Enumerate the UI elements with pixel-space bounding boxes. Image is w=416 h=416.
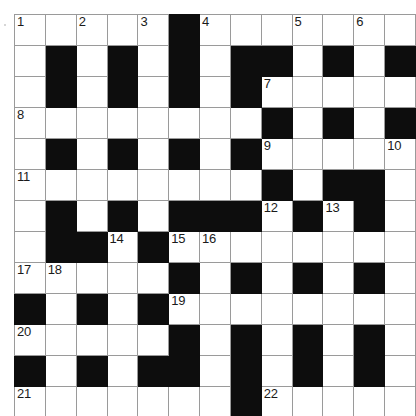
- crossword-open-cell[interactable]: [107, 170, 138, 201]
- crossword-open-cell[interactable]: [323, 15, 354, 46]
- crossword-open-cell[interactable]: [45, 325, 76, 356]
- crossword-open-cell[interactable]: [107, 263, 138, 294]
- crossword-open-cell[interactable]: [200, 387, 231, 416]
- crossword-open-cell[interactable]: 14: [107, 232, 138, 263]
- crossword-open-cell[interactable]: 3: [138, 15, 169, 46]
- crossword-open-cell[interactable]: [45, 15, 76, 46]
- crossword-open-cell[interactable]: [261, 232, 292, 263]
- crossword-open-cell[interactable]: [169, 108, 200, 139]
- crossword-open-cell[interactable]: [385, 263, 416, 294]
- crossword-open-cell[interactable]: [323, 232, 354, 263]
- crossword-open-cell[interactable]: [138, 46, 169, 77]
- crossword-open-cell[interactable]: [76, 77, 107, 108]
- crossword-open-cell[interactable]: [323, 263, 354, 294]
- crossword-open-cell[interactable]: [385, 170, 416, 201]
- crossword-open-cell[interactable]: [107, 15, 138, 46]
- crossword-open-cell[interactable]: [45, 294, 76, 325]
- crossword-open-cell[interactable]: [138, 139, 169, 170]
- crossword-open-cell[interactable]: [385, 232, 416, 263]
- crossword-open-cell[interactable]: [385, 325, 416, 356]
- crossword-open-cell[interactable]: [354, 46, 385, 77]
- crossword-open-cell[interactable]: [45, 108, 76, 139]
- crossword-open-cell[interactable]: [107, 356, 138, 387]
- crossword-open-cell[interactable]: [107, 387, 138, 416]
- crossword-open-cell[interactable]: [385, 387, 416, 416]
- crossword-open-cell[interactable]: [107, 325, 138, 356]
- crossword-open-cell[interactable]: [15, 232, 46, 263]
- crossword-open-cell[interactable]: 18: [45, 263, 76, 294]
- crossword-open-cell[interactable]: 15: [169, 232, 200, 263]
- crossword-open-cell[interactable]: [200, 108, 231, 139]
- crossword-open-cell[interactable]: [76, 108, 107, 139]
- crossword-open-cell[interactable]: [230, 108, 261, 139]
- crossword-open-cell[interactable]: 9: [261, 139, 292, 170]
- crossword-open-cell[interactable]: 22: [261, 387, 292, 416]
- crossword-open-cell[interactable]: [76, 263, 107, 294]
- crossword-open-cell[interactable]: [261, 263, 292, 294]
- crossword-open-cell[interactable]: [385, 15, 416, 46]
- crossword-open-cell[interactable]: 21: [15, 387, 46, 416]
- crossword-open-cell[interactable]: [323, 139, 354, 170]
- crossword-open-cell[interactable]: 19: [169, 294, 200, 325]
- crossword-open-cell[interactable]: [323, 387, 354, 416]
- crossword-open-cell[interactable]: [385, 356, 416, 387]
- crossword-open-cell[interactable]: [169, 387, 200, 416]
- crossword-open-cell[interactable]: [261, 325, 292, 356]
- crossword-open-cell[interactable]: [354, 294, 385, 325]
- crossword-open-cell[interactable]: [200, 356, 231, 387]
- crossword-open-cell[interactable]: 7: [261, 77, 292, 108]
- crossword-open-cell[interactable]: [15, 201, 46, 232]
- crossword-open-cell[interactable]: [354, 139, 385, 170]
- crossword-open-cell[interactable]: [76, 139, 107, 170]
- crossword-open-cell[interactable]: [15, 46, 46, 77]
- crossword-open-cell[interactable]: [200, 46, 231, 77]
- crossword-open-cell[interactable]: [76, 201, 107, 232]
- crossword-open-cell[interactable]: [138, 201, 169, 232]
- crossword-open-cell[interactable]: 11: [15, 170, 46, 201]
- crossword-open-cell[interactable]: [230, 294, 261, 325]
- crossword-open-cell[interactable]: [200, 77, 231, 108]
- crossword-open-cell[interactable]: [76, 46, 107, 77]
- crossword-open-cell[interactable]: [200, 325, 231, 356]
- crossword-open-cell[interactable]: [354, 108, 385, 139]
- crossword-open-cell[interactable]: [292, 46, 323, 77]
- crossword-open-cell[interactable]: [292, 170, 323, 201]
- crossword-open-cell[interactable]: [385, 77, 416, 108]
- crossword-open-cell[interactable]: [230, 232, 261, 263]
- crossword-open-cell[interactable]: [261, 15, 292, 46]
- crossword-open-cell[interactable]: [107, 294, 138, 325]
- crossword-open-cell[interactable]: [45, 170, 76, 201]
- crossword-open-cell[interactable]: [138, 77, 169, 108]
- crossword-open-cell[interactable]: 10: [385, 139, 416, 170]
- crossword-open-cell[interactable]: [200, 139, 231, 170]
- crossword-open-cell[interactable]: [354, 77, 385, 108]
- crossword-open-cell[interactable]: 2: [76, 15, 107, 46]
- crossword-open-cell[interactable]: 12: [261, 201, 292, 232]
- crossword-open-cell[interactable]: [230, 170, 261, 201]
- crossword-open-cell[interactable]: 17: [15, 263, 46, 294]
- crossword-open-cell[interactable]: [323, 325, 354, 356]
- crossword-open-cell[interactable]: [200, 263, 231, 294]
- crossword-open-cell[interactable]: 5: [292, 15, 323, 46]
- crossword-open-cell[interactable]: [169, 170, 200, 201]
- crossword-open-cell[interactable]: 6: [354, 15, 385, 46]
- crossword-open-cell[interactable]: [138, 387, 169, 416]
- crossword-open-cell[interactable]: [76, 387, 107, 416]
- crossword-open-cell[interactable]: [138, 263, 169, 294]
- crossword-open-cell[interactable]: [323, 356, 354, 387]
- crossword-open-cell[interactable]: [385, 294, 416, 325]
- crossword-open-cell[interactable]: [261, 294, 292, 325]
- crossword-open-cell[interactable]: [292, 232, 323, 263]
- crossword-open-cell[interactable]: [292, 108, 323, 139]
- crossword-open-cell[interactable]: [200, 170, 231, 201]
- crossword-open-cell[interactable]: 1: [15, 15, 46, 46]
- crossword-open-cell[interactable]: [385, 201, 416, 232]
- crossword-open-cell[interactable]: [107, 108, 138, 139]
- crossword-open-cell[interactable]: [45, 356, 76, 387]
- crossword-open-cell[interactable]: [292, 387, 323, 416]
- crossword-open-cell[interactable]: [45, 387, 76, 416]
- crossword-open-cell[interactable]: [15, 77, 46, 108]
- crossword-open-cell[interactable]: [354, 232, 385, 263]
- crossword-open-cell[interactable]: [76, 325, 107, 356]
- crossword-open-cell[interactable]: [292, 77, 323, 108]
